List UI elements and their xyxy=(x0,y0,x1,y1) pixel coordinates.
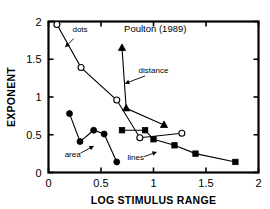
x-tick-label-0: 0 xyxy=(45,177,51,189)
y-axis-title: EXPONENT xyxy=(5,67,17,127)
x-tick-label-2: 1 xyxy=(150,177,156,189)
x-axis-tick-labels: 00.511.52 xyxy=(45,177,261,189)
annotation-dots: dots xyxy=(65,25,87,47)
marker-dots-4 xyxy=(179,130,185,136)
marker-lines-4 xyxy=(193,151,198,156)
y-tick-label-2: 1 xyxy=(35,91,41,103)
exponent-vs-log-stimulus-range-chart: 00.511.52 00.511.52 LOG STIMULUS RANGE E… xyxy=(0,0,270,209)
x-tick-label-1: 0.5 xyxy=(93,177,108,189)
annotation-label-dots: dots xyxy=(72,25,87,34)
annotation-label-area: area xyxy=(65,150,82,159)
marker-lines-1 xyxy=(142,128,147,133)
marker-distance-1 xyxy=(123,104,130,111)
x-tick-label-3: 1.5 xyxy=(198,177,213,189)
x-axis-title: LOG STIMULUS RANGE xyxy=(91,194,217,206)
y-tick-label-4: 2 xyxy=(35,16,41,28)
marker-lines-2 xyxy=(151,137,156,142)
marker-lines-5 xyxy=(233,159,238,164)
data-series-layer xyxy=(54,22,238,165)
y-axis-tick-labels: 00.511.52 xyxy=(26,16,41,179)
marker-lines-0 xyxy=(119,128,124,133)
marker-dots-2 xyxy=(114,97,120,103)
marker-distance-0 xyxy=(118,44,125,51)
annotation-label-lines: lines xyxy=(127,153,143,162)
x-tick-label-4: 2 xyxy=(255,177,261,189)
plot-title: Poulton (1989) xyxy=(124,23,186,34)
chart-figure: 00.511.52 00.511.52 LOG STIMULUS RANGE E… xyxy=(0,0,270,209)
marker-area-2 xyxy=(91,127,97,133)
annotation-area: area xyxy=(65,146,94,159)
series-line-dots xyxy=(57,25,182,138)
marker-dots-1 xyxy=(78,65,84,71)
annotation-distance: distance xyxy=(125,66,169,84)
y-tick-label-1: 0.5 xyxy=(26,129,41,141)
marker-dots-3 xyxy=(137,135,143,141)
marker-lines-3 xyxy=(172,143,177,148)
annotation-lines: lines xyxy=(127,151,156,161)
annotation-label-distance: distance xyxy=(139,66,169,75)
marker-dots-0 xyxy=(54,22,60,28)
marker-area-4 xyxy=(114,159,120,165)
series-line-distance xyxy=(122,48,164,125)
marker-area-0 xyxy=(67,111,73,117)
y-tick-label-3: 1.5 xyxy=(26,53,41,65)
y-tick-label-0: 0 xyxy=(35,167,41,179)
marker-area-1 xyxy=(77,139,83,145)
marker-area-3 xyxy=(101,131,107,137)
